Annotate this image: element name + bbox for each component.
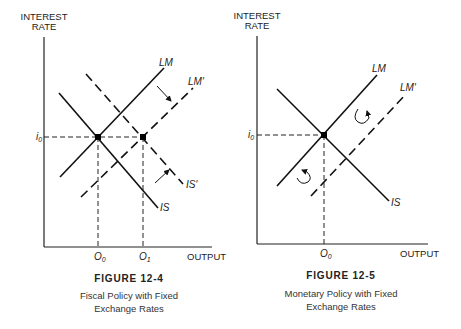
is-prime-label: IS′ — [186, 179, 198, 190]
i0-label: i0 — [248, 129, 254, 141]
o0-label: O0 — [94, 251, 106, 263]
lm-label: LM — [372, 63, 387, 74]
x-axis-label: OUTPUT — [187, 251, 226, 262]
is-curve — [59, 93, 158, 208]
is-label: IS — [160, 202, 170, 213]
is-curve — [277, 89, 389, 201]
figure-caption-line2: Exchange Rates — [94, 303, 164, 314]
figure-caption-line1: Monetary Policy with Fixed — [285, 288, 398, 299]
lm-prime-label: LM′ — [400, 82, 417, 93]
figure-title: FIGURE 12-5 — [306, 270, 375, 281]
figure-12-4: INTEREST RATE LM LM′ IS′ IS i0 O0 O1 — [21, 11, 227, 314]
o1-label: O1 — [139, 251, 151, 263]
lm-prime-label: LM′ — [188, 76, 205, 87]
is-shift-arrow-icon — [155, 170, 169, 183]
o0-label: O0 — [320, 248, 332, 260]
u-turn-arrow-upper-icon — [355, 109, 369, 123]
figure-12-5: INTEREST RATE LM LM′ IS i0 O0 OUTPUT FIG… — [234, 10, 440, 312]
i0-label: i0 — [36, 131, 42, 143]
lm-prime-curve — [311, 94, 406, 196]
lm-curve — [60, 68, 164, 177]
diagram-canvas: INTEREST RATE LM LM′ IS′ IS i0 O0 O1 — [0, 0, 461, 329]
lm-curve — [277, 75, 377, 186]
x-axis-label: OUTPUT — [400, 248, 439, 259]
is-prime-curve — [86, 74, 183, 184]
figure-caption-line1: Fiscal Policy with Fixed — [80, 290, 178, 301]
y-axis-label-line2: RATE — [32, 21, 57, 32]
equilibrium-point-e0 — [95, 134, 101, 140]
lm-label: LM — [159, 57, 174, 68]
u-turn-arrow-lower-icon — [297, 170, 310, 183]
figure-caption-line2: Exchange Rates — [306, 301, 376, 312]
equilibrium-point-e1 — [140, 134, 146, 140]
lm-shift-arrow-icon — [157, 86, 171, 101]
equilibrium-point-e0 — [321, 132, 327, 138]
figure-title: FIGURE 12-4 — [94, 273, 163, 284]
y-axis-label-line2: RATE — [245, 20, 270, 31]
is-label: IS — [391, 197, 401, 208]
